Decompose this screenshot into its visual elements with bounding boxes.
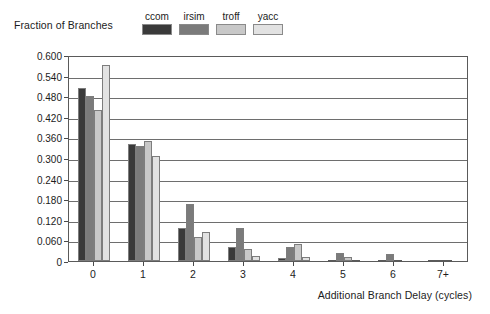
y-axis-title: Fraction of Branches <box>14 19 113 31</box>
y-axis-tick-label: 0.480 <box>37 92 62 103</box>
y-axis-tick-label: 0.300 <box>37 154 62 165</box>
x-axis-tick-mark <box>343 262 344 266</box>
x-axis-tick-mark <box>443 262 444 266</box>
legend-swatch <box>216 24 246 35</box>
bar-irsim-3 <box>236 228 244 261</box>
y-axis-tick-label: 0 <box>56 257 62 268</box>
bar-group-4 <box>269 57 319 261</box>
plot-area <box>68 56 468 262</box>
y-axis-tick-label: 0.360 <box>37 133 62 144</box>
bar-ccom-0 <box>78 88 86 261</box>
x-axis-tick-label: 2 <box>190 268 196 280</box>
x-axis-tick-mark <box>243 262 244 266</box>
bar-irsim-6 <box>386 254 394 261</box>
bar-troff-4 <box>294 244 302 261</box>
x-axis-tick-mark <box>93 262 94 266</box>
bar-yacc-3 <box>252 256 260 261</box>
bar-troff-7plus <box>444 260 452 261</box>
bar-troff-1 <box>144 141 152 261</box>
bar-yacc-2 <box>202 232 210 261</box>
x-axis-tick-label: 5 <box>340 268 346 280</box>
y-axis-tick-mark <box>64 262 68 263</box>
bar-ccom-5 <box>328 260 336 261</box>
x-axis-tick-label: 0 <box>90 268 96 280</box>
bar-irsim-5 <box>336 253 344 261</box>
bar-ccom-1 <box>128 144 136 261</box>
y-axis-tick-label: 0.240 <box>37 174 62 185</box>
bar-ccom-3 <box>228 247 236 261</box>
x-axis-tick-mark <box>143 262 144 266</box>
x-axis-tick-mark <box>193 262 194 266</box>
bar-ccom-7plus <box>428 260 436 261</box>
bar-yacc-0 <box>102 65 110 261</box>
x-axis-tick-mark <box>293 262 294 266</box>
bar-troff-3 <box>244 249 252 261</box>
bar-group-6 <box>369 57 419 261</box>
legend-swatch <box>142 24 172 35</box>
bar-troff-2 <box>194 237 202 261</box>
y-axis-tick-label: 0.120 <box>37 215 62 226</box>
bar-group-1 <box>119 57 169 261</box>
bar-ccom-2 <box>178 228 186 261</box>
y-axis-tick-label: 0.420 <box>37 112 62 123</box>
legend-label: yacc <box>258 11 279 22</box>
y-axis-tick-label: 0.600 <box>37 51 62 62</box>
x-axis-tick-label: 1 <box>140 268 146 280</box>
y-axis-tick-labels: 0.6000.5400.4800.4200.3600.3000.2400.180… <box>0 56 62 262</box>
x-axis-tick-mark <box>393 262 394 266</box>
bar-group-5 <box>319 57 369 261</box>
bar-group-2 <box>169 57 219 261</box>
bar-yacc-1 <box>152 156 160 261</box>
branch-delay-bar-chart: Fraction of Branches ccomirsimtroffyacc … <box>0 0 490 314</box>
x-axis-tick-label: 7+ <box>437 268 449 280</box>
bar-irsim-0 <box>86 96 94 261</box>
y-axis-tick-label: 0.060 <box>37 236 62 247</box>
bar-yacc-4 <box>302 257 310 261</box>
bar-group-3 <box>219 57 269 261</box>
bar-ccom-6 <box>378 260 386 261</box>
y-axis-tick-label: 0.540 <box>37 71 62 82</box>
x-axis-tick-label: 3 <box>240 268 246 280</box>
bar-troff-0 <box>94 110 102 261</box>
legend-label: irsim <box>183 11 204 22</box>
legend-entry-irsim: irsim <box>179 11 209 35</box>
y-axis-tick-label: 0.180 <box>37 195 62 206</box>
bar-irsim-7plus <box>436 260 444 261</box>
bar-group-0 <box>69 57 119 261</box>
legend-swatch <box>253 24 283 35</box>
legend-label: ccom <box>145 11 169 22</box>
legend-entry-yacc: yacc <box>253 11 283 35</box>
legend-label: troff <box>222 11 239 22</box>
bar-troff-5 <box>344 257 352 261</box>
legend-swatch <box>179 24 209 35</box>
x-axis-tick-label: 4 <box>290 268 296 280</box>
legend-entry-ccom: ccom <box>142 11 172 35</box>
bars-layer <box>69 57 467 261</box>
bar-group-7plus <box>419 57 469 261</box>
x-axis-title: Additional Branch Delay (cycles) <box>318 289 472 301</box>
bar-irsim-4 <box>286 247 294 261</box>
bar-irsim-2 <box>186 204 194 261</box>
chart-legend: ccomirsimtroffyacc <box>142 11 283 35</box>
bar-ccom-4 <box>278 258 286 261</box>
bar-troff-6 <box>394 260 402 261</box>
x-axis-tick-label: 6 <box>390 268 396 280</box>
bar-irsim-1 <box>136 146 144 261</box>
legend-entry-troff: troff <box>216 11 246 35</box>
bar-yacc-5 <box>352 260 360 261</box>
